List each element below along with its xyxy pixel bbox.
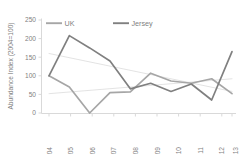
abundance-index-line-chart: 250 200 150 100 50 0 Abundance Index (20… [0,0,242,154]
figure-caption [6,147,234,154]
y-tick-label-0: 0 [32,109,36,116]
y-axis-title: Abundance Index (2004=100) [7,22,15,109]
y-tick-label-150: 150 [25,54,36,61]
y-tick-label-100: 100 [25,72,36,79]
legend-label-uk: UK [65,19,75,28]
y-tick-label-200: 200 [25,35,36,42]
y-tick-label-50: 50 [29,91,37,98]
chart-figure: 250 200 150 100 50 0 Abundance Index (20… [0,0,242,154]
legend-label-jersey: Jersey [132,19,154,28]
y-tick-label-250: 250 [25,16,36,23]
